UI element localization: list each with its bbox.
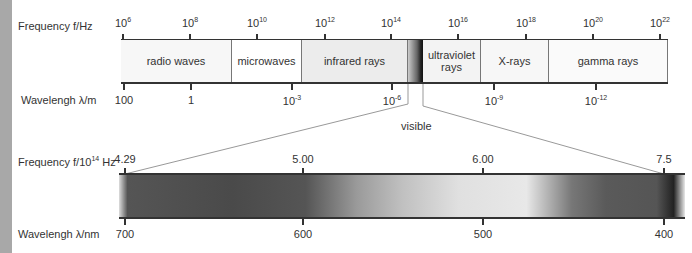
frequency-label-exp: 14 (91, 155, 99, 162)
visible-wavelength-tick (663, 219, 665, 225)
frequency-tick-label: 1020 (583, 16, 603, 29)
wavelength-tick-label: 10-12 (585, 94, 607, 107)
wavelength-tick (190, 84, 192, 90)
wavelength-tick-label: 10-9 (485, 94, 503, 107)
visible-wavelength-axis-label: Wavelengh λ/nm (18, 228, 100, 240)
visible-frequency-tick (663, 168, 665, 174)
band-microwaves: microwaves (231, 40, 301, 82)
band-infrared-rays: infrared rays (301, 40, 407, 82)
frequency-axis-label: Frequency f/Hz (18, 20, 93, 32)
visible-wavelength-tick-label: 400 (655, 228, 673, 240)
frequency-tick-label: 1010 (247, 16, 267, 29)
visible-wavelength-tick-label: 500 (474, 228, 492, 240)
frequency-tick-label: 1018 (516, 16, 536, 29)
frequency-tick-label: 1012 (315, 16, 335, 29)
visible-frequency-tick-label: 5.00 (292, 153, 313, 165)
frequency-tick-label: 1016 (448, 16, 468, 29)
visible-wavelength-tick (124, 219, 126, 225)
visible-frequency-tick (482, 168, 484, 174)
band-x-rays: X-rays (480, 40, 548, 82)
wavelength-tick (123, 84, 125, 90)
wavelength-tick (493, 84, 495, 90)
frequency-label-unit: Hz (99, 156, 116, 168)
wavelength-tick (391, 84, 393, 90)
wavelength-tick-label: 10-3 (283, 94, 301, 107)
band-ultraviolet-rays: ultraviolet rays (423, 40, 480, 82)
visible-frequency-axis-label: Frequency f/1014 Hz (18, 155, 116, 168)
visible-label: visible (401, 120, 432, 132)
wavelength-tick-label: 100 (115, 94, 133, 106)
frequency-tick-label: 106 (115, 16, 131, 29)
band-visible (407, 40, 423, 82)
visible-frequency-tick-label: 4.29 (114, 153, 135, 165)
wavelength-tick-label: 1 (188, 94, 194, 106)
visible-frequency-tick (302, 168, 304, 174)
visible-wavelength-tick-label: 700 (116, 228, 134, 240)
top-wavelength-axis (121, 82, 668, 84)
band-radio-waves: radio waves (121, 40, 231, 82)
wavelength-tick-label: 10-6 (383, 94, 401, 107)
visible-spectrum-bar (119, 175, 685, 217)
visible-frequency-tick-label: 6.00 (472, 153, 493, 165)
visible-wavelength-tick (482, 219, 484, 225)
frequency-tick-label: 1014 (381, 16, 401, 29)
visible-wavelength-tick-label: 600 (294, 228, 312, 240)
frequency-label-text: Frequency f/10 (18, 156, 91, 168)
visible-frequency-tick-label: 7.5 (656, 153, 671, 165)
visible-frequency-tick (124, 168, 126, 174)
band-gamma-rays: gamma rays (548, 40, 668, 82)
frequency-tick-label: 1022 (650, 16, 670, 29)
wavelength-tick (595, 84, 597, 90)
wavelength-axis-label: Wavelengh λ/m (21, 94, 96, 106)
visible-wavelength-tick (302, 219, 304, 225)
wavelength-tick (291, 84, 293, 90)
frequency-tick-label: 108 (182, 16, 198, 29)
